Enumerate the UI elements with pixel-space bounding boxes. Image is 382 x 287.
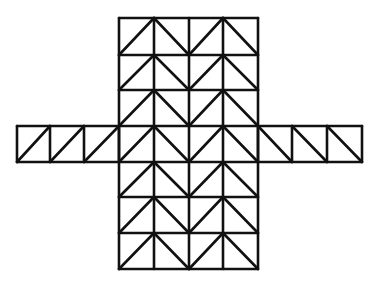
left-arm-diagonal	[84, 126, 119, 162]
center-diagonal	[119, 233, 154, 269]
center-diagonal	[223, 90, 258, 126]
center-diagonal	[223, 18, 258, 55]
left-arm-diagonal	[50, 126, 84, 162]
center-diagonal	[189, 197, 223, 233]
center-diagonal	[189, 233, 223, 269]
center-diagonal	[119, 55, 154, 90]
center-diagonal	[189, 90, 223, 126]
center-diagonal	[154, 162, 189, 197]
center-diagonal	[223, 162, 258, 197]
center-diagonal	[154, 197, 189, 233]
center-diagonal	[189, 18, 223, 55]
center-diagonal	[223, 233, 258, 269]
grid-lines	[17, 18, 362, 269]
center-diagonal	[223, 197, 258, 233]
left-arm-diagonal	[17, 126, 50, 162]
triangle-grid-drawing	[0, 0, 382, 287]
center-diagonal	[154, 55, 189, 90]
center-diagonal	[154, 126, 189, 162]
right-arm-diagonal	[327, 126, 362, 162]
center-diagonal	[154, 90, 189, 126]
center-diagonal	[119, 126, 154, 162]
center-diagonal	[223, 55, 258, 90]
center-diagonal	[119, 90, 154, 126]
center-diagonal	[189, 126, 223, 162]
right-arm-diagonal	[258, 126, 292, 162]
center-diagonal	[154, 233, 189, 269]
center-diagonal	[119, 18, 154, 55]
center-diagonal	[189, 162, 223, 197]
center-diagonal	[154, 18, 189, 55]
center-diagonal	[189, 55, 223, 90]
center-diagonal	[119, 197, 154, 233]
right-arm-diagonal	[292, 126, 327, 162]
center-diagonal	[223, 126, 258, 162]
center-diagonal	[119, 162, 154, 197]
